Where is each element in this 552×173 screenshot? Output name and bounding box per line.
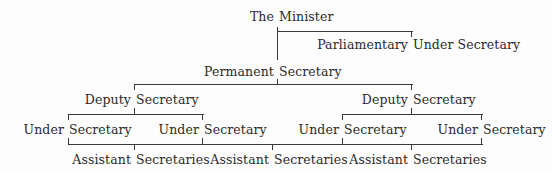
node-deputy-left-first: Deputy — [85, 94, 131, 107]
connector-tick — [202, 114, 203, 120]
node-assistant-2-second: Secretaries — [274, 154, 348, 167]
connector-tick — [134, 144, 135, 150]
node-under-1-first: Under — [24, 124, 64, 137]
connector-unders-assistants — [68, 144, 483, 145]
org-chart: The Minister Parliamentary Under Secreta… — [0, 0, 552, 173]
connector-deputy-right-unders — [342, 114, 483, 115]
node-under-1-second: Secretary — [69, 124, 132, 137]
node-under-4-second: Secretary — [483, 124, 546, 137]
connector-tick — [134, 84, 135, 90]
node-assistant-2-first: Assistant — [210, 154, 269, 167]
connector-permanent-deputies — [134, 84, 413, 85]
connector-tick — [342, 114, 343, 120]
connector-minister-parliamentary — [277, 31, 413, 32]
node-deputy-left-second: Secretary — [136, 94, 199, 107]
node-assistant-3-second: Secretaries — [413, 154, 487, 167]
node-assistant-1-first: Assistant — [72, 154, 131, 167]
node-minister-second: Minister — [279, 11, 333, 24]
node-minister-first: The — [250, 11, 274, 24]
node-assistant-3-first: Assistant — [349, 154, 408, 167]
node-under-2-second: Secretary — [204, 124, 267, 137]
node-under-3-first: Under — [299, 124, 339, 137]
connector-tick — [411, 144, 412, 150]
node-under-2-first: Under — [159, 124, 199, 137]
node-parliamentary-second: Under Secretary — [413, 39, 520, 52]
node-permanent-first: Permanent — [204, 66, 274, 79]
node-permanent-second: Secretary — [279, 66, 342, 79]
node-assistant-1-second: Secretaries — [136, 154, 210, 167]
connector-deputy-left-unders — [68, 114, 204, 115]
node-under-3-second: Secretary — [344, 124, 407, 137]
node-parliamentary-first: Parliamentary — [317, 39, 408, 52]
connector-tick — [481, 114, 482, 120]
node-deputy-right-second: Secretary — [413, 94, 476, 107]
connector-tick — [411, 84, 412, 90]
connector-tick — [272, 144, 273, 150]
node-under-4-first: Under — [438, 124, 478, 137]
connector-tick — [68, 114, 69, 120]
node-deputy-right-first: Deputy — [362, 94, 408, 107]
